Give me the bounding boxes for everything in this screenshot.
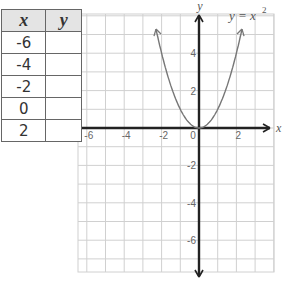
x-value: 0 <box>2 98 46 120</box>
y-axis-label: y <box>196 0 203 13</box>
table-header-row: x y <box>2 10 82 32</box>
y-tick-label: -6 <box>187 235 196 246</box>
x-tick-label: -2 <box>159 130 168 141</box>
x-tick-label: 0 <box>190 130 196 141</box>
y-value-cell[interactable] <box>46 54 82 76</box>
axes <box>82 15 270 277</box>
y-tick-label: 4 <box>190 48 196 59</box>
function-label-exponent: 2 <box>262 5 267 15</box>
x-value: -6 <box>2 32 46 54</box>
xy-value-table: x y -6 -4 -2 0 2 <box>1 9 82 142</box>
table-row: -6 <box>2 32 82 54</box>
x-tick-label: 2 <box>236 130 242 141</box>
function-label: y = x <box>227 8 256 23</box>
header-y: y <box>46 10 82 32</box>
y-value-cell[interactable] <box>46 120 82 142</box>
x-tick-label: -4 <box>122 130 131 141</box>
x-value: 2 <box>2 120 46 142</box>
table-row: 2 <box>2 120 82 142</box>
table-row: -4 <box>2 54 82 76</box>
table-row: 0 <box>2 98 82 120</box>
x-value: -4 <box>2 54 46 76</box>
y-tick-label: 2 <box>190 86 196 97</box>
x-axis-label: x <box>275 121 282 135</box>
header-x: x <box>2 10 46 32</box>
grid-lines <box>78 14 274 272</box>
y-tick-label: -4 <box>187 198 196 209</box>
y-tick-label: -2 <box>187 160 196 171</box>
y-value-cell[interactable] <box>46 76 82 98</box>
x-value: -2 <box>2 76 46 98</box>
y-value-cell[interactable] <box>46 98 82 120</box>
y-value-cell[interactable] <box>46 32 82 54</box>
table-row: -2 <box>2 76 82 98</box>
x-tick-label: -6 <box>84 130 93 141</box>
